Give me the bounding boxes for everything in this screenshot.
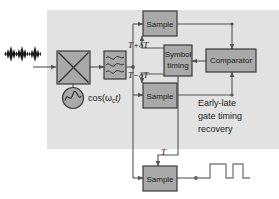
comparator-block[interactable]: Comparator xyxy=(206,49,256,72)
local-oscillator-block[interactable] xyxy=(63,88,84,109)
diagram-svg: cos(ωct) Sample Sample Sample Symbol tim… xyxy=(0,0,279,199)
sample-data-block[interactable]: Sample xyxy=(143,166,177,191)
input-pulse-train xyxy=(5,46,42,62)
output-digital-waveform xyxy=(196,164,250,178)
mixer-block[interactable] xyxy=(57,51,90,84)
symbol-timing-block[interactable]: Symbol timing xyxy=(164,45,192,76)
oscillator-label: cos(ωct) xyxy=(88,93,121,104)
symbol-timing-label-line2: timing xyxy=(167,61,188,70)
panel-note-line-3: recovery xyxy=(198,124,233,134)
sample-late-block[interactable]: Sample xyxy=(143,83,177,108)
junction-comparator-in-top xyxy=(230,22,233,25)
sample-early-block[interactable]: Sample xyxy=(143,11,177,36)
sample-early-label: Sample xyxy=(146,20,174,29)
symbol-timing-label-line1: Symbol xyxy=(165,50,192,59)
input-pulse-2 xyxy=(16,46,29,62)
input-pulse-3 xyxy=(29,46,41,62)
figure-canvas: cos(ωct) Sample Sample Sample Symbol tim… xyxy=(0,0,279,199)
junction-bus xyxy=(131,65,135,69)
label-early-timing: T+δT xyxy=(128,40,149,50)
panel-note-line-1: Early-late xyxy=(198,98,236,108)
label-late-timing: T−δT xyxy=(128,70,149,80)
comparator-label: Comparator xyxy=(210,56,253,65)
bandpass-filter-block[interactable] xyxy=(104,51,126,79)
sample-late-label: Sample xyxy=(146,92,174,101)
sample-data-label: Sample xyxy=(146,175,174,184)
panel-note-line-2: gate timing xyxy=(198,111,242,121)
junction-comparator-in-bot xyxy=(230,93,233,96)
